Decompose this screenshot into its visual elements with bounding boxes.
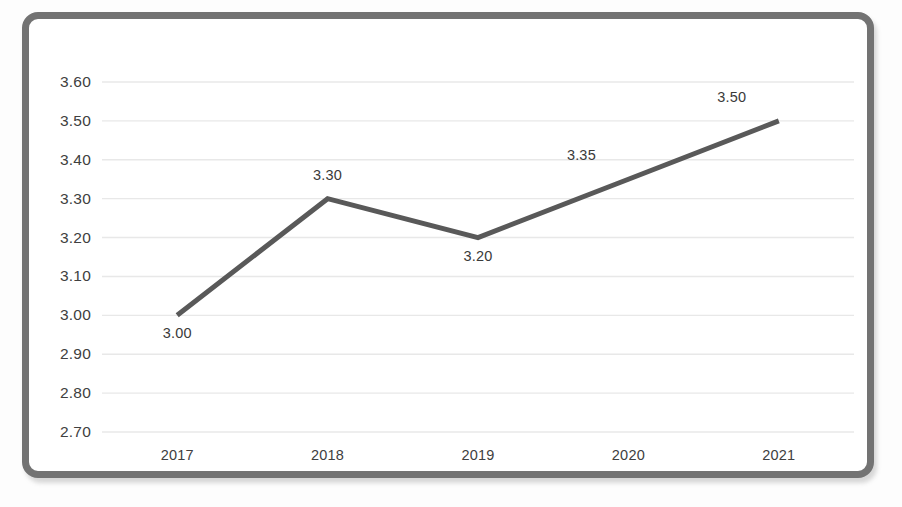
- x-axis-tick-label: 2018: [311, 447, 344, 463]
- y-axis-tick-label: 3.00: [60, 306, 91, 324]
- y-axis-tick-label: 3.20: [60, 229, 91, 247]
- x-axis-tick-label: 2020: [612, 447, 645, 463]
- y-axis-tick-label: 2.70: [60, 423, 91, 441]
- data-point-label: 3.30: [313, 167, 342, 183]
- data-point-label: 3.50: [717, 89, 746, 105]
- y-axis-tick-label: 3.30: [60, 190, 91, 208]
- data-line-series: [177, 121, 779, 315]
- plot-area: 3.603.503.403.303.203.103.002.902.802.70…: [29, 19, 867, 471]
- x-axis-tick-label: 2017: [161, 447, 194, 463]
- chart-frame: 3.603.503.403.303.203.103.002.902.802.70…: [22, 12, 874, 478]
- data-point-label: 3.35: [567, 147, 596, 163]
- data-point-label: 3.00: [163, 325, 192, 341]
- x-axis-tick-label: 2021: [762, 447, 795, 463]
- y-axis-tick-label: 3.60: [60, 73, 91, 91]
- y-axis-tick-label: 3.40: [60, 151, 91, 169]
- chart-svg: [29, 19, 867, 471]
- x-axis-tick-label: 2019: [461, 447, 494, 463]
- data-point-label: 3.20: [463, 248, 492, 264]
- y-axis-tick-label: 3.50: [60, 112, 91, 130]
- y-axis-tick-label: 2.90: [60, 345, 91, 363]
- y-axis-tick-label: 2.80: [60, 384, 91, 402]
- y-axis-tick-label: 3.10: [60, 267, 91, 285]
